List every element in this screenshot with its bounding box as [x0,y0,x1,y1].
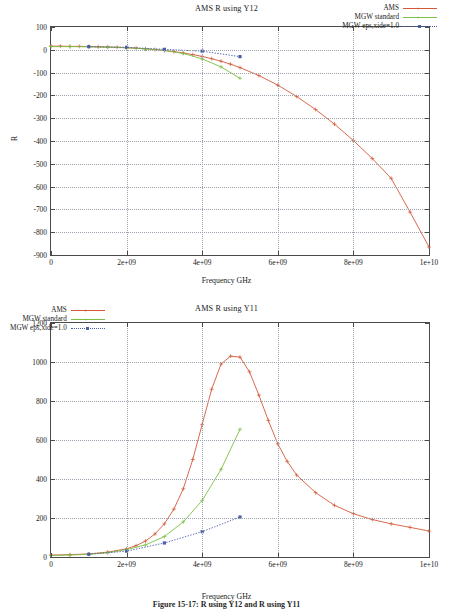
legend-label: AMS [51,306,71,315]
series-line-mgw-standard [51,429,240,555]
x-tick-label: 2e+09 [117,560,136,569]
gridline-horizontal [51,401,429,402]
data-point-marker [191,458,195,462]
data-point-marker [408,210,412,214]
y-tick [51,362,55,363]
y-tick [51,209,55,210]
gridline-horizontal [51,518,429,519]
legend-key: + [403,4,437,13]
y-tick-label: -700 [33,205,47,214]
y-tick-label: 1000 [32,358,47,367]
data-point-marker [257,393,261,397]
legend-item: AMS+ [10,306,105,315]
y-tick-right [425,187,429,188]
y-tick-label: 600 [36,436,47,445]
legend-label: MGW eps,xide=1.0 [342,22,403,31]
data-point-marker [210,387,214,391]
legend-key-line [403,17,437,18]
legend-key-marker: + [416,5,420,13]
y-tick-label: -300 [33,114,47,123]
x-tick-top [127,323,128,327]
y-tick-label: 0 [43,45,47,54]
legend-key: + [71,306,105,315]
data-point-marker [219,65,223,69]
y-tick-label: 800 [36,397,47,406]
y-tick-label: 0 [43,553,47,562]
y-tick-right [425,95,429,96]
legend-item: MGW eps,xide=1.0 [10,324,105,333]
legend-key-line [403,8,437,9]
x-tick [202,553,203,557]
y-tick [51,73,55,74]
x-tick-label: 0 [49,258,53,267]
data-point-marker [229,62,233,66]
data-point-marker [68,553,72,557]
legend-label: AMS [383,4,403,13]
legend-key-line [71,319,105,320]
x-tick-top [429,323,430,327]
y-tick-label: -900 [33,251,47,260]
chart-r-using-y11: AMS R using Y11 R 02e+094e+096e+098e+091… [0,300,453,590]
x-tick-top [278,27,279,31]
chart-r-using-y12: AMS R using Y12 R Frequency GHz 02e+094e… [0,0,453,300]
gridline-horizontal [51,141,429,142]
y-tick-label: -500 [33,159,47,168]
data-point-marker [68,45,72,49]
data-point-marker [266,419,270,423]
data-point-marker [238,427,242,431]
y-tick [51,440,55,441]
legend-key-line [71,310,105,311]
x-tick-label: 2e+09 [117,258,136,267]
y-tick-right [425,440,429,441]
x-tick-top [278,323,279,327]
data-point-marker [238,76,242,80]
x-tick [127,251,128,255]
y-tick-label: 400 [36,475,47,484]
x-tick [278,553,279,557]
data-point-marker [144,543,148,547]
data-point-marker [389,522,393,526]
legend-bottom: AMS+MGW standard+MGW eps,xide=1.0 [10,306,105,333]
y-tick [51,401,55,402]
y-tick-right [425,232,429,233]
x-tick [429,553,430,557]
series-line-ams [51,46,429,247]
y-tick-right [425,73,429,74]
figure-page: AMS R using Y12 R Frequency GHz 02e+094e… [0,0,453,611]
y-tick-right [425,479,429,480]
x-tick [353,553,354,557]
legend-item: MGW standard+ [10,315,105,324]
y-axis-label-top: R [10,136,19,141]
x-tick [202,251,203,255]
gridline-horizontal [51,209,429,210]
legend-key-marker: + [84,316,88,324]
y-tick [51,118,55,119]
gridline-horizontal [51,95,429,96]
data-point-marker [427,529,431,533]
y-tick [51,164,55,165]
y-tick-right [425,362,429,363]
y-tick-right [425,518,429,519]
legend-item: MGW eps,xide=1.0 [342,22,437,31]
y-tick-right [425,255,429,256]
data-point-marker [408,525,412,529]
y-tick-label: -400 [33,137,47,146]
y-tick [51,50,55,51]
data-point-marker [58,44,62,48]
y-tick [51,557,55,558]
y-tick-label: -200 [33,91,47,100]
x-tick [429,251,430,255]
y-tick-right [425,118,429,119]
legend-key-marker: + [416,14,420,22]
y-tick [51,232,55,233]
data-point-marker [219,59,223,63]
y-tick-right [425,50,429,51]
y-tick-label: -100 [33,68,47,77]
legend-item: AMS+ [342,4,437,13]
y-tick-right [425,209,429,210]
gridline-horizontal [51,73,429,74]
x-tick-top [202,323,203,327]
y-tick [51,141,55,142]
data-point-marker [181,487,185,491]
legend-key: + [403,13,437,22]
